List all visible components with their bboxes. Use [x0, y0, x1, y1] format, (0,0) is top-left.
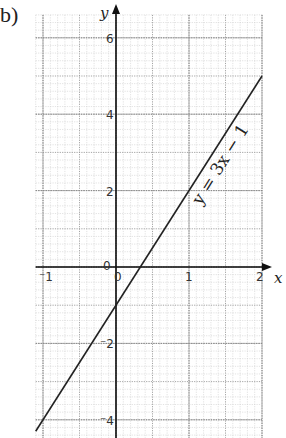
- x-tick-label: ⁻1: [39, 270, 53, 284]
- y-tick-label: ⁻2: [100, 337, 114, 351]
- x-tick-label: 1: [185, 270, 193, 284]
- axis-labels: xyy = 3x − 1: [99, 4, 283, 287]
- x-axis-label: x: [274, 269, 283, 287]
- y-tick-label: ⁻4: [100, 414, 114, 428]
- minor-gridlines: [36, 15, 262, 438]
- equation-annotation: y = 3x − 1: [187, 120, 253, 209]
- y-tick-label: 6: [106, 32, 114, 46]
- x-tick-label: 0: [114, 270, 122, 284]
- y-tick-label: 0: [103, 259, 111, 273]
- y-axis-label: y: [99, 4, 109, 22]
- coordinate-grid-chart: ⁻1012⁻4⁻20246 xyy = 3x − 1: [0, 0, 286, 438]
- major-gridlines: [36, 15, 262, 438]
- y-tick-label: 2: [106, 185, 114, 199]
- x-tick-label: 2: [256, 270, 264, 284]
- y-axis-arrow-icon: [112, 4, 120, 14]
- y-tick-label: 4: [106, 108, 114, 122]
